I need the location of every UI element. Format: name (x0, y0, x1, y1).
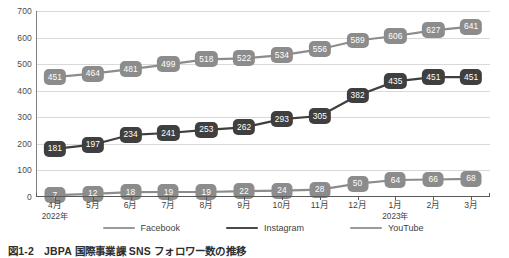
y-axis-tick-label: 400 (17, 86, 32, 96)
data-label: 181 (44, 141, 66, 157)
data-label: 382 (346, 88, 368, 104)
legend-item-youtube[interactable]: YouTube (350, 223, 423, 233)
x-axis-tick-label: 2月 (426, 200, 440, 211)
legend-swatch-icon (226, 227, 258, 230)
data-label: 518 (195, 51, 217, 67)
x-axis-tick-label: 9月 (237, 200, 251, 211)
data-label: 589 (346, 33, 368, 49)
y-axis-tick-label: 200 (17, 139, 32, 149)
x-axis-tick-label: 5月 (86, 200, 100, 211)
series-line-facebook (55, 179, 471, 195)
data-label: 522 (233, 50, 255, 66)
data-label: 50 (347, 176, 368, 192)
figure-caption: 図1-2JBPA 国際事業課 SNS フォロワー数の推移 (8, 243, 246, 258)
plot-area: 4514644814995185225345565896066276411811… (36, 11, 490, 197)
x-axis-tick-label: 12月 (348, 200, 367, 211)
data-label: 68 (461, 171, 482, 187)
y-axis-tick-labels: 0100200300400500600700 (0, 0, 32, 255)
data-label: 481 (119, 61, 141, 77)
y-axis-tick-label: 0 (27, 192, 32, 202)
data-label: 64 (385, 172, 406, 188)
x-axis-tick-label: 10月 (273, 200, 292, 211)
x-axis-line (36, 196, 490, 197)
data-label: 499 (157, 56, 179, 72)
series-line-instagram (55, 77, 471, 149)
x-axis-tick-label: 1月2023年 (382, 200, 408, 222)
axis-end-cap (36, 193, 37, 197)
data-label: 451 (44, 69, 66, 85)
data-label: 293 (271, 111, 293, 127)
legend-item-instagram[interactable]: Instagram (226, 223, 304, 233)
data-label: 197 (82, 137, 104, 153)
data-label: 464 (82, 66, 104, 82)
x-axis-tick-label: 4月2022年 (42, 200, 68, 222)
x-axis-tick-label: 6月 (124, 200, 138, 211)
figure-caption-text: JBPA 国際事業課 SNS フォロワー数の推移 (44, 245, 246, 257)
legend-label: Instagram (264, 223, 304, 233)
data-label: 451 (460, 69, 482, 85)
y-axis-tick-label: 300 (17, 112, 32, 122)
x-axis-tick-label: 11月 (311, 200, 329, 211)
legend-swatch-icon (350, 227, 382, 230)
data-label: 556 (309, 41, 331, 57)
figure-number: 図1-2 (8, 245, 34, 257)
axis-end-cap (489, 193, 490, 197)
data-label: 305 (309, 108, 331, 124)
data-label: 435 (384, 73, 406, 89)
series-lines (36, 11, 490, 197)
y-axis-tick-label: 700 (17, 6, 32, 16)
data-label: 66 (423, 172, 444, 188)
data-label: 451 (422, 69, 444, 85)
legend-label: YouTube (388, 223, 423, 233)
x-axis-tick-label: 7月 (162, 200, 176, 211)
legend-label: Facebook (141, 223, 181, 233)
data-label: 534 (271, 47, 293, 63)
data-label: 262 (233, 119, 255, 135)
data-label: 234 (119, 127, 141, 143)
y-axis-tick-label: 600 (17, 33, 32, 43)
x-axis-tick-label: 3月 (464, 200, 478, 211)
legend-item-facebook[interactable]: Facebook (103, 223, 181, 233)
data-label: 606 (384, 28, 406, 44)
x-axis-tick-label: 8月 (199, 200, 213, 211)
chart-legend: FacebookInstagramYouTube (36, 220, 490, 236)
y-axis-line (36, 11, 37, 197)
legend-swatch-icon (103, 227, 135, 230)
series-line-youtube (55, 27, 471, 77)
y-axis-tick-label: 500 (17, 59, 32, 69)
data-label: 241 (157, 125, 179, 141)
y-axis-tick-label: 100 (17, 165, 32, 175)
data-label: 641 (460, 19, 482, 35)
data-label: 627 (422, 22, 444, 38)
data-label: 253 (195, 122, 217, 138)
